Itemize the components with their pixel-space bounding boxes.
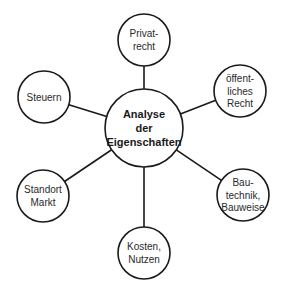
node-label-line: Bauweise: [221, 202, 265, 213]
node-label-line: technik,: [226, 190, 260, 201]
connector-line-standort-markt: [65, 150, 112, 182]
node-bautechnik: Bau-technik,Bauweise: [217, 169, 269, 221]
node-label-line: recht: [133, 41, 155, 52]
node-label-line: Kosten,: [127, 241, 161, 252]
concept-nodes: AnalysederEigenschaftenPrivat-rechtöffen…: [17, 14, 269, 279]
node-label-line: Privat-: [130, 28, 159, 39]
center-label-line: der: [135, 122, 153, 134]
center-label-line: Eigenschaften: [106, 136, 181, 148]
node-label-line: Steuern: [26, 92, 61, 103]
connector-line-steuern: [69, 105, 107, 117]
node-label-line: Nutzen: [128, 254, 160, 265]
node-privatrecht: Privat-recht: [118, 14, 170, 66]
center-node: AnalysederEigenschaften: [105, 89, 183, 167]
node-label-line: Bau-: [232, 177, 253, 188]
node-oeffentliches-recht: öffent-lichesRecht: [214, 65, 266, 117]
center-label-line: Analyse: [123, 108, 165, 120]
node-label-line: liches: [227, 86, 253, 97]
node-label-line: Recht: [227, 98, 253, 109]
connector-line-oeffentliches-recht: [180, 100, 215, 114]
node-kosten-nutzen: Kosten,Nutzen: [118, 227, 170, 279]
node-standort-markt: StandortMarkt: [17, 170, 69, 222]
node-steuern: Steuern: [18, 71, 70, 123]
node-label-line: öffent-: [226, 73, 254, 84]
node-label-line: Markt: [31, 197, 56, 208]
connector-line-bautechnik: [176, 150, 221, 181]
node-label-line: Standort: [24, 184, 62, 195]
mind-map-diagram: AnalysederEigenschaftenPrivat-rechtöffen…: [0, 0, 283, 297]
